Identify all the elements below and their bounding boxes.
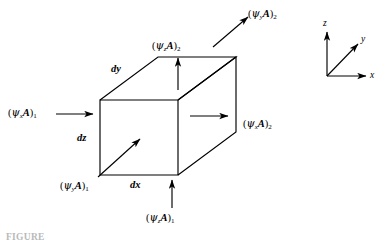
flux-y-in-psi: ψ	[64, 179, 72, 191]
figure-caption: FIGURE	[6, 232, 45, 240]
edge-label-dz: dz	[77, 133, 86, 144]
flux-x-out-psi: ψ	[247, 117, 255, 129]
flux-x-in-index: 1	[33, 112, 37, 120]
flux-y-in-index: 1	[85, 185, 89, 193]
flux-label-x-in: (ψxA)1	[8, 107, 37, 120]
flux-y-out-area: A	[263, 8, 270, 19]
flux-x-out-index: 2	[268, 123, 272, 131]
axis-label-x: x	[370, 71, 374, 81]
flux-z-out-index: 2	[177, 45, 181, 53]
flux-y-out-psi: ψ	[252, 7, 260, 19]
flux-label-z-in: (ψzA)1	[146, 212, 174, 225]
flux-x-in-psi: ψ	[12, 106, 20, 118]
cube-front-face	[100, 100, 178, 175]
flux-label-z-out: (ψzA)2	[152, 40, 180, 53]
flux-z-out-psi: ψ	[156, 39, 164, 51]
flux-y-in-area: A	[75, 180, 82, 191]
flux-x-in-area: A	[23, 107, 30, 118]
flux-x-out-area: A	[258, 118, 265, 129]
axis-label-z: z	[323, 19, 327, 29]
flux-z-in-psi: ψ	[150, 211, 158, 223]
edge-label-dx: dx	[130, 180, 141, 191]
axis-label-y: y	[361, 35, 365, 45]
flux-arrow-y-out	[213, 17, 248, 47]
axis-line-y	[327, 44, 358, 76]
flux-label-y-out: (ψyA)2	[248, 8, 277, 21]
flux-control-volume-drawing	[0, 0, 387, 240]
flux-arrow-y-in	[98, 139, 140, 177]
flux-y-out-index: 2	[273, 13, 277, 21]
flux-z-in-index: 1	[171, 217, 175, 225]
edge-label-dy: dy	[111, 64, 121, 75]
figure-root: (ψxA)1 (ψxA)2 (ψyA)1 (ψyA)2 (ψzA)2 (ψzA)…	[0, 0, 387, 240]
flux-label-x-out: (ψxA)2	[243, 118, 272, 131]
flux-label-y-in: (ψyA)1	[60, 180, 89, 193]
